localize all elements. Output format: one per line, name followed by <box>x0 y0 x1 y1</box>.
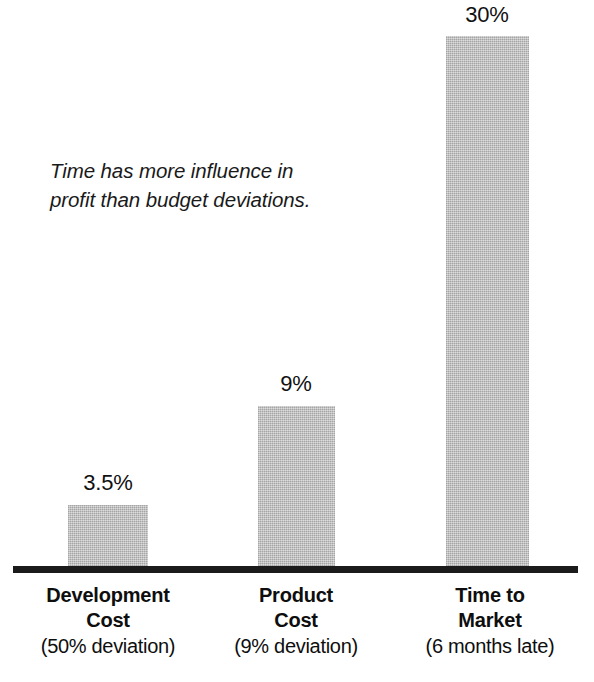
category-label-development-cost: Development Cost (50% deviation) <box>8 583 208 659</box>
category-name-line-2: Cost <box>8 608 208 633</box>
category-sublabel-development-cost: (50% deviation) <box>8 633 208 659</box>
category-name-time-to-market: Time to Market <box>392 583 588 633</box>
category-label-time-to-market: Time to Market (6 months late) <box>392 583 588 659</box>
category-name-line-1: Time to <box>392 583 588 608</box>
category-name-line-1: Development <box>8 583 208 608</box>
category-axis-labels: Development Cost (50% deviation) Product… <box>0 583 594 682</box>
plot-area: 3.5% 9% 30% <box>0 0 594 567</box>
axis-baseline <box>13 566 578 573</box>
bar-value-development-cost: 3.5% <box>58 470 158 496</box>
bar-value-time-to-market: 30% <box>437 2 537 28</box>
bar-value-product-cost: 9% <box>246 371 346 397</box>
category-sublabel-product-cost: (9% deviation) <box>201 633 391 659</box>
bar-time-to-market <box>446 36 529 567</box>
bar-chart: Time has more influence in profit than b… <box>0 0 594 682</box>
category-name-line-2: Cost <box>201 608 391 633</box>
category-name-product-cost: Product Cost <box>201 583 391 633</box>
category-name-line-2: Market <box>392 608 588 633</box>
bar-product-cost <box>258 406 335 567</box>
category-name-line-1: Product <box>201 583 391 608</box>
category-name-development-cost: Development Cost <box>8 583 208 633</box>
bar-development-cost <box>68 505 148 567</box>
category-label-product-cost: Product Cost (9% deviation) <box>201 583 391 659</box>
category-sublabel-time-to-market: (6 months late) <box>392 633 588 659</box>
